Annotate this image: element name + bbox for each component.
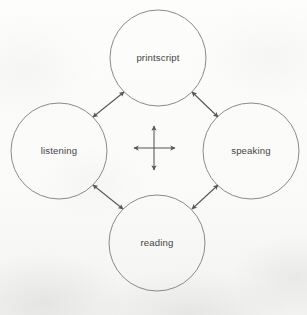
four-skills-diagram: printscript listening speaking reading [0, 0, 307, 315]
connector-printscript-speaking [192, 92, 218, 117]
node-group: printscript listening speaking reading [11, 10, 299, 291]
node-reading[interactable]: reading [109, 195, 205, 291]
connector-group [93, 92, 218, 209]
connector-reading-speaking [192, 185, 218, 209]
connector-listening-printscript [93, 92, 124, 117]
node-listening[interactable]: listening [11, 103, 107, 199]
center-cross-arrows [134, 126, 175, 170]
node-speaking[interactable]: speaking [203, 103, 299, 199]
node-speaking-label: speaking [231, 145, 271, 156]
node-printscript-label: printscript [136, 52, 179, 63]
node-printscript[interactable]: printscript [110, 10, 206, 106]
node-reading-label: reading [140, 237, 173, 248]
connector-listening-reading [93, 185, 123, 209]
diagram-canvas: printscript listening speaking reading [0, 0, 307, 315]
node-listening-label: listening [41, 145, 78, 156]
